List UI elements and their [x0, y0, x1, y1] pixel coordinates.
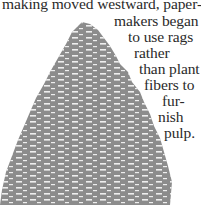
text-line: than plant	[139, 61, 200, 77]
text-line: fur-	[162, 93, 185, 109]
text-line: rather	[134, 45, 170, 61]
text-line: fibers to	[144, 77, 194, 93]
text-line: to use rags	[128, 29, 193, 45]
text-line: nish	[158, 109, 183, 125]
text-line: pulp.	[164, 125, 195, 141]
text-line: making moved westward, paper-	[2, 0, 201, 12]
text-line: makers began	[114, 13, 198, 29]
